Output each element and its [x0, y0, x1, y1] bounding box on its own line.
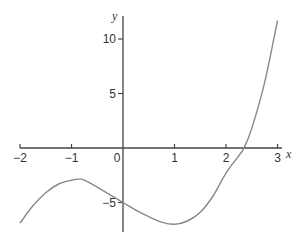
tick-labels: −2−10123−5510	[13, 32, 281, 210]
axes	[20, 16, 282, 232]
y-tick-label: 5	[109, 87, 116, 101]
x-tick-label: 3	[274, 151, 281, 165]
tick-marks	[20, 39, 278, 203]
y-tick-label: 10	[103, 32, 117, 46]
function-curve	[20, 21, 278, 225]
x-tick-label: −2	[13, 151, 27, 165]
cubic-function-chart: −2−10123−5510 x y	[0, 0, 308, 248]
x-tick-label: −1	[65, 151, 79, 165]
origin-label: 0	[114, 151, 121, 165]
x-tick-label: 1	[171, 151, 178, 165]
x-tick-label: 2	[223, 151, 230, 165]
x-axis-label: x	[285, 147, 292, 161]
y-axis-label: y	[111, 9, 118, 23]
